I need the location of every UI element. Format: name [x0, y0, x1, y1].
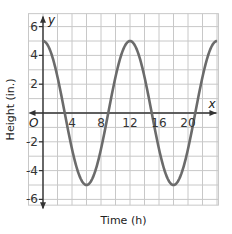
- y-tick-label: -6: [26, 192, 38, 206]
- origin-label: O: [29, 116, 38, 130]
- x-tick-label: 4: [68, 116, 76, 130]
- grid: [29, 14, 219, 206]
- x-tick-label: 12: [122, 116, 137, 130]
- y-tick-label: 4: [30, 48, 38, 62]
- x-tick-label: 8: [97, 116, 105, 130]
- y-axis-variable: y: [47, 13, 56, 27]
- y-axis-label: Height (in.): [4, 78, 17, 140]
- y-tick-label: 2: [30, 77, 38, 91]
- chart: 48121620642-2-4-6 x y O Time (h) Height …: [0, 0, 232, 234]
- y-tick-label: 6: [30, 20, 38, 34]
- x-tick-label: 16: [151, 116, 166, 130]
- x-tick-label: 20: [180, 116, 195, 130]
- y-tick-label: -2: [26, 135, 38, 149]
- x-axis-label: Time (h): [99, 214, 146, 227]
- y-tick-label: -4: [26, 164, 38, 178]
- x-axis-variable: x: [207, 97, 216, 111]
